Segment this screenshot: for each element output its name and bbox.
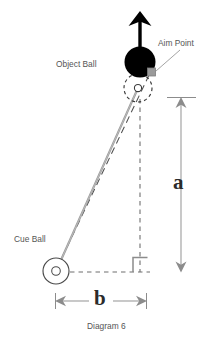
cue-ball-icon <box>43 258 69 284</box>
cue-travel-line-core <box>57 88 138 269</box>
cue-ball-label: Cue Ball <box>14 235 46 243</box>
aim-point-label: Aim Point <box>158 39 194 47</box>
aim-point-leader-line <box>156 50 180 71</box>
aim-point-marker-icon <box>148 68 156 76</box>
dimension-a-label: a <box>173 172 184 193</box>
diagram-graphics <box>0 0 218 344</box>
dimension-b-label: b <box>94 288 106 309</box>
diagram-canvas: Object Ball Aim Point Cue Ball a b Diagr… <box>0 0 218 344</box>
diagram-caption: Diagram 6 <box>87 322 126 330</box>
object-ball-label: Object Ball <box>56 60 97 68</box>
